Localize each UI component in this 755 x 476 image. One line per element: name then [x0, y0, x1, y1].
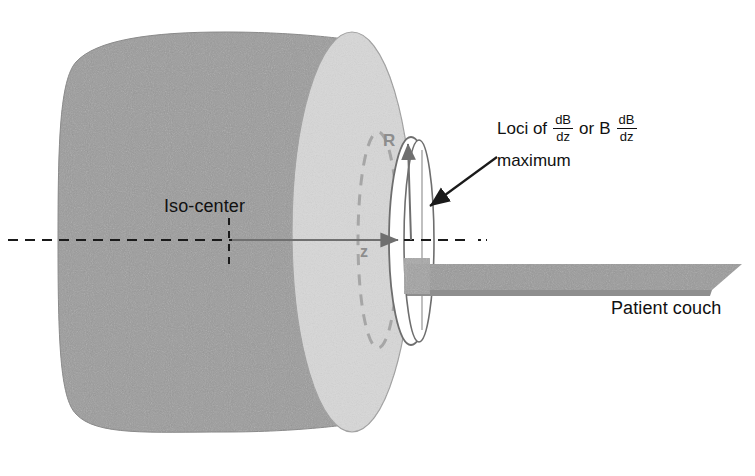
loci-prefix-text: Loci of	[497, 120, 547, 137]
fraction1-numerator: dB	[553, 113, 573, 128]
loci-connector-text: or	[579, 120, 594, 137]
field-symbol-text: B	[599, 120, 610, 137]
fraction1-denominator: dz	[554, 129, 572, 144]
loci-annotation: Loci of dB dz or B dB dz maximum	[497, 113, 638, 169]
fraction-dB-dz-second: dB dz	[616, 113, 638, 143]
figure-canvas: Iso-center Patient couch R z Loci of dB …	[0, 0, 755, 476]
loci-annotation-line2: maximum	[497, 152, 638, 169]
annotation-leader-arrow	[430, 157, 497, 206]
mri-scanner-diagram	[0, 0, 755, 476]
fraction2-numerator: dB	[617, 113, 637, 128]
iso-center-label: Iso-center	[164, 196, 245, 217]
fraction-dB-dz-first: dB dz	[552, 113, 574, 143]
fraction2-denominator: dz	[618, 129, 636, 144]
loci-annotation-line1: Loci of dB dz or B dB dz	[497, 113, 638, 143]
patient-couch	[404, 258, 742, 296]
radius-label: R	[383, 131, 395, 151]
z-axis-label: z	[360, 243, 368, 261]
patient-couch-label: Patient couch	[611, 298, 721, 319]
